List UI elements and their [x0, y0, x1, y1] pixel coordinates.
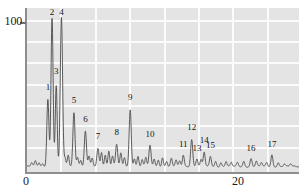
peak-label-3: 3	[48, 67, 64, 76]
peak-label-5: 5	[66, 96, 82, 105]
peak-label-15: 15	[202, 141, 218, 150]
y-tick-label-100: 100	[0, 14, 22, 28]
peak-label-16: 16	[243, 144, 259, 153]
peak-label-7: 7	[90, 132, 106, 141]
x-tick-label-0: 0	[16, 175, 36, 188]
peak-label-6: 6	[77, 115, 93, 124]
x-axis-line	[25, 172, 299, 174]
y-axis-line	[25, 8, 27, 174]
peak-label-1: 1	[40, 83, 56, 92]
peak-label-17: 17	[264, 140, 280, 149]
plot-area: 1234567891011121314151617	[26, 8, 299, 172]
peak-label-8: 8	[109, 128, 125, 137]
peak-label-4: 4	[53, 8, 69, 17]
peak-label-9: 9	[122, 93, 138, 102]
peak-label-10: 10	[142, 130, 158, 139]
peak-label-12: 12	[184, 123, 200, 132]
x-tick-label-20: 20	[227, 175, 249, 188]
chromatogram-figure: 1234567891011121314151617 100 0 20	[0, 0, 304, 192]
